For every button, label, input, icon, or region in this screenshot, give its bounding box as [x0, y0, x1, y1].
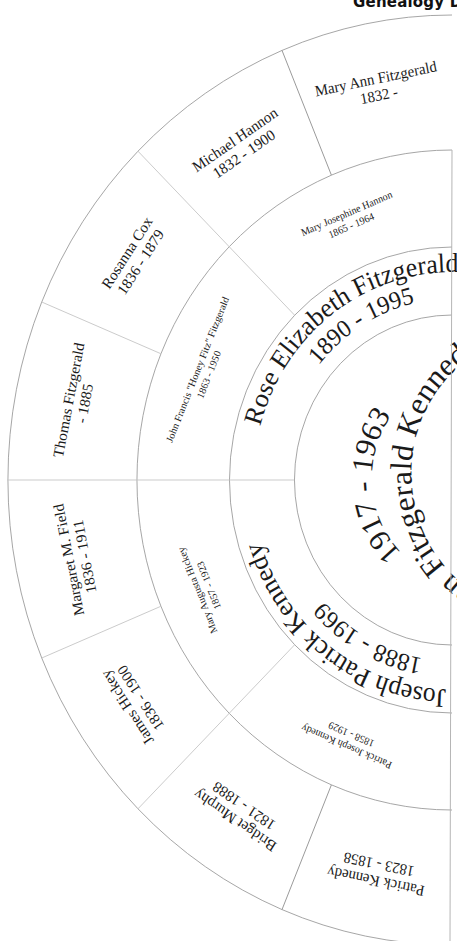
- person-gen2-1[interactable]: John Francis "Honey Fitz" Fitzgerald 186…: [164, 295, 243, 449]
- fan-chart: John Fitzgerald Kennedy 1917 - 1963 Rose…: [0, 0, 457, 941]
- divider-gen3-d: [282, 785, 331, 910]
- person-gen3-5[interactable]: James Hickey 1836 - 1900: [97, 657, 170, 748]
- person-gen2-0[interactable]: Mary Josephine Hannon 1865 - 1964: [299, 189, 398, 251]
- person-gen3-0[interactable]: Mary Ann Fitzgerald 1832 -: [313, 57, 441, 116]
- person-gen3-6[interactable]: Bridget Murphy 1821 - 1888: [190, 771, 288, 856]
- person-gen2-2[interactable]: Mary Augusta Hickey 1857 - 1923: [175, 540, 231, 636]
- person-root-name[interactable]: John Fitzgerald Kennedy: [384, 325, 457, 631]
- person-gen3-3[interactable]: Thomas Fitzgerald - 1885: [49, 341, 103, 462]
- divider-gen3-b: [42, 302, 161, 354]
- divider-gen3-c: [42, 606, 161, 658]
- person-gen3-1[interactable]: Michael Hannon 1832 - 1900: [189, 103, 290, 189]
- divider-gen3-a: [282, 50, 331, 175]
- person-gen2-3[interactable]: Patrick Joseph Kennedy 1858 - 1929: [299, 710, 398, 772]
- person-gen3-2[interactable]: Rosanna Cox 1836 - 1879: [98, 213, 170, 301]
- person-gen3-7[interactable]: Patrick Kennedy 1823 - 1858: [325, 846, 429, 900]
- person-gen3-4[interactable]: Margaret M. Field 1836 - 1911: [50, 499, 103, 618]
- svg-text:John Francis "Honey Fitz" Fitz: John Francis "Honey Fitz" Fitzgerald: [164, 295, 231, 444]
